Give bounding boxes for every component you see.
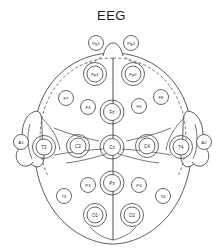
electrode-disc[interactable] [124, 36, 139, 51]
electrode-pg1[interactable]: Pg1 [89, 36, 104, 51]
electrode-disc[interactable] [139, 138, 155, 154]
electrode-c3[interactable]: C3 [67, 135, 90, 158]
nose-shape [103, 43, 123, 56]
electrode-disc[interactable] [89, 36, 104, 51]
electrode-fp1[interactable]: Fp1 [84, 63, 107, 86]
electrode-disc[interactable] [104, 104, 121, 121]
electrode-disc[interactable] [14, 135, 29, 150]
eeg-head-diagram: Pg1Pg2Fp1Fp2F7F3FzF4F8A1T3C3CzC4T4A2P3Pz… [0, 0, 223, 249]
electrode-a1[interactable]: A1 [14, 135, 29, 150]
electrode-f7[interactable]: F7 [59, 91, 74, 106]
electrode-t6[interactable]: T6 [156, 189, 171, 204]
electrode-f3[interactable]: F3 [81, 100, 96, 115]
electrode-disc[interactable] [57, 189, 72, 204]
electrode-disc[interactable] [81, 178, 96, 193]
electrode-disc[interactable] [125, 66, 141, 82]
electrode-disc[interactable] [173, 139, 189, 155]
electrode-t3[interactable]: T3 [33, 136, 56, 159]
electrode-disc[interactable] [81, 100, 96, 115]
electrode-fp2[interactable]: Fp2 [122, 63, 145, 86]
electrode-disc[interactable] [132, 178, 147, 193]
electrode-p4[interactable]: P4 [132, 178, 147, 193]
electrode-pz[interactable]: Pz [100, 171, 124, 195]
electrode-t4[interactable]: T4 [170, 136, 193, 159]
electrode-disc[interactable] [104, 139, 121, 156]
electrode-f4[interactable]: F4 [132, 99, 147, 114]
electrode-disc[interactable] [154, 90, 169, 105]
electrode-f8[interactable]: F8 [154, 90, 169, 105]
electrode-t5[interactable]: T5 [57, 189, 72, 204]
electrode-o2[interactable]: O2 [121, 204, 144, 227]
electrode-cz[interactable]: Cz [100, 135, 124, 159]
electrode-disc[interactable] [132, 99, 147, 114]
electrode-pg2[interactable]: Pg2 [124, 36, 139, 51]
electrode-disc[interactable] [70, 138, 86, 154]
electrode-disc[interactable] [124, 207, 140, 223]
electrode-disc[interactable] [104, 175, 121, 192]
electrode-disc[interactable] [156, 189, 171, 204]
electrode-o1[interactable]: O1 [84, 204, 107, 227]
electrode-disc[interactable] [36, 139, 52, 155]
electrode-disc[interactable] [87, 66, 103, 82]
electrode-disc[interactable] [87, 207, 103, 223]
electrode-disc[interactable] [59, 91, 74, 106]
electrode-p3[interactable]: P3 [81, 178, 96, 193]
electrode-c4[interactable]: C4 [136, 135, 159, 158]
eeg-figure: EEG Pg1Pg2Fp1Fp2F7F3FzF4F8A1T [0, 0, 223, 249]
electrode-fz[interactable]: Fz [100, 100, 124, 124]
electrode-disc[interactable] [197, 135, 212, 150]
electrode-a2[interactable]: A2 [197, 135, 212, 150]
